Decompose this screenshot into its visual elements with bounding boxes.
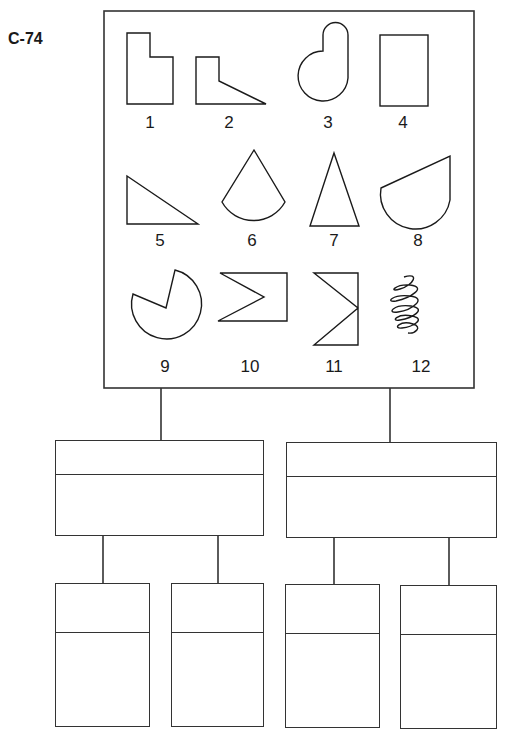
leaf-box-1-header[interactable] — [56, 584, 149, 633]
mid-left-box-header[interactable] — [56, 441, 263, 475]
shape-1-icon — [127, 33, 173, 104]
leaf-box-2-header[interactable] — [172, 584, 263, 633]
shape-label-9: 9 — [145, 357, 185, 377]
leaf-box-3[interactable] — [285, 584, 380, 728]
shape-label-7: 7 — [314, 231, 354, 251]
leaf-box-2[interactable] — [171, 583, 264, 727]
leaf-box-1[interactable] — [55, 583, 150, 727]
shape-4-icon — [380, 35, 428, 106]
leaf-box-4-header[interactable] — [401, 586, 496, 635]
shape-6-icon — [222, 150, 285, 221]
shape-8-icon — [380, 156, 450, 229]
shape-label-12: 12 — [401, 357, 441, 377]
shape-label-3: 3 — [308, 113, 348, 133]
shape-label-2: 2 — [209, 113, 249, 133]
shape-2-icon — [196, 57, 266, 104]
mid-right-box-header[interactable] — [287, 443, 496, 477]
shape-5-icon — [127, 176, 198, 224]
leaf-box-3-header[interactable] — [286, 585, 379, 634]
shape-label-6: 6 — [232, 231, 272, 251]
mid-left-box[interactable] — [55, 440, 264, 536]
shape-7-icon — [310, 153, 359, 226]
leaf-box-4[interactable] — [400, 585, 497, 729]
shape-label-1: 1 — [130, 113, 170, 133]
shape-9-icon — [132, 270, 202, 339]
shape-10-icon — [218, 273, 287, 321]
shape-label-5: 5 — [140, 231, 180, 251]
shape-11-icon — [314, 273, 358, 345]
shape-label-8: 8 — [398, 231, 438, 251]
mid-right-box[interactable] — [286, 442, 497, 538]
shape-label-4: 4 — [383, 113, 423, 133]
shape-12-icon — [391, 276, 419, 333]
shape-label-11: 11 — [314, 357, 354, 377]
shape-3-icon — [298, 23, 348, 101]
shape-label-10: 10 — [230, 357, 270, 377]
shapes-panel-frame — [104, 11, 474, 388]
